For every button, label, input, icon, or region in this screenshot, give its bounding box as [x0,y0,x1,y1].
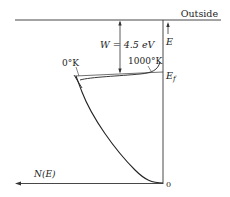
temp-1000k-leader [148,66,151,71]
temp-0k-label: 0°K [62,58,79,68]
dos-axis-arrow-icon [15,182,21,186]
diagram-canvas: Outside E Ef W = 4.5 eV 0°K 1000°K N(E) … [0,0,230,197]
dos-axis-label: N(E) [33,169,56,179]
work-function-label: W = 4.5 eV [100,39,156,50]
origin-label: 0 [166,180,171,189]
energy-axis-label: E [165,36,173,47]
fermi-level-label: Ef [165,70,177,83]
outside-label: Outside [181,8,219,19]
zero-k-edge [74,75,82,88]
energy-arrow-icon [166,22,169,34]
dos-curve [76,76,163,183]
temp-1000k-label: 1000°K [128,56,162,66]
temp-0k-leader [76,67,79,76]
